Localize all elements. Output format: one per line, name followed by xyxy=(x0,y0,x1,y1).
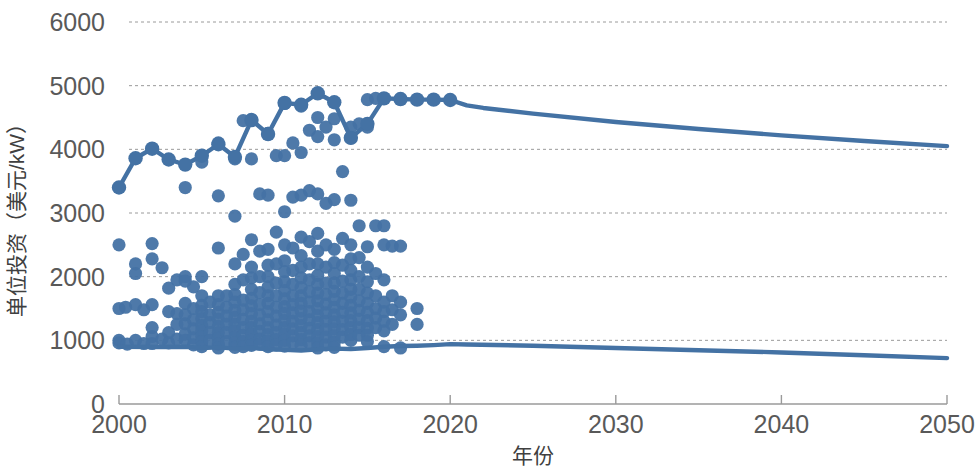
scatter-point xyxy=(394,240,407,253)
x-tick-label-2010: 2010 xyxy=(257,410,313,438)
scatter-point xyxy=(394,308,407,321)
x-tick-label-2050: 2050 xyxy=(919,410,975,438)
line-marker xyxy=(410,92,424,106)
scatter-point xyxy=(228,210,241,223)
y-tick-label-2000: 2000 xyxy=(49,263,105,291)
y-tick-label-5000: 5000 xyxy=(49,72,105,100)
scatter-point xyxy=(377,219,390,232)
scatter-point xyxy=(328,133,341,146)
line-series-0 xyxy=(119,93,947,187)
line-marker xyxy=(377,91,391,105)
y-tick-label-1000: 1000 xyxy=(49,326,105,354)
line-marker xyxy=(443,93,457,107)
y-axis-title: 单位投资（美元/kW） xyxy=(5,113,28,317)
line-marker xyxy=(128,151,142,165)
line-marker xyxy=(344,131,358,145)
line-marker xyxy=(145,142,159,156)
line-marker xyxy=(112,180,126,194)
scatter-point xyxy=(328,193,341,206)
line-marker xyxy=(393,92,407,106)
scatter-point xyxy=(278,149,291,162)
line-marker xyxy=(311,86,325,100)
scatter-point xyxy=(129,267,142,280)
x-tick-label-2000: 2000 xyxy=(91,410,147,438)
scatter-point xyxy=(146,298,159,311)
line-marker xyxy=(211,137,225,151)
scatter-point xyxy=(261,243,274,256)
scatter-point xyxy=(155,261,168,274)
scatter-point xyxy=(344,194,357,207)
scatter-point xyxy=(112,238,125,251)
x-tick-label-2030: 2030 xyxy=(588,410,644,438)
x-tick-label-2020: 2020 xyxy=(422,410,478,438)
y-tick-label-6000: 6000 xyxy=(49,8,105,36)
scatter-point xyxy=(361,240,374,253)
scatter-point xyxy=(245,152,258,165)
line-marker xyxy=(360,117,374,131)
scatter-point xyxy=(146,237,159,250)
line-marker xyxy=(161,152,175,166)
chart-container: 0100020003000400050006000 20002010202020… xyxy=(0,0,980,470)
scatter-point xyxy=(353,219,366,232)
scatter-point xyxy=(377,273,390,286)
scatter-point xyxy=(195,270,208,283)
scatter-point xyxy=(212,241,225,254)
line-marker xyxy=(277,96,291,110)
unit-investment-scatter-chart: 0100020003000400050006000 20002010202020… xyxy=(0,0,980,470)
y-tick-labels-group: 0100020003000400050006000 xyxy=(49,8,105,418)
scatter-point xyxy=(344,238,357,251)
scatter-point xyxy=(237,248,250,261)
scatter-point xyxy=(270,226,283,239)
scatter-point xyxy=(245,233,258,246)
axes-group xyxy=(119,395,947,404)
x-tick-labels-group: 200020102020203020402050 xyxy=(91,410,975,438)
x-axis-title: 年份 xyxy=(512,444,554,467)
scatter-point xyxy=(261,189,274,202)
line-marker xyxy=(244,113,258,127)
y-tick-label-3000: 3000 xyxy=(49,199,105,227)
line-marker xyxy=(178,157,192,171)
x-tick-label-2040: 2040 xyxy=(754,410,810,438)
line-marker xyxy=(261,127,275,141)
scatter-point xyxy=(278,205,291,218)
scatter-point xyxy=(295,146,308,159)
scatter-point xyxy=(311,227,324,240)
scatter-point xyxy=(410,302,423,315)
scatter-point xyxy=(328,243,341,256)
line-marker xyxy=(426,92,440,106)
line-marker xyxy=(228,150,242,164)
scatter-point xyxy=(146,252,159,265)
y-tick-label-4000: 4000 xyxy=(49,135,105,163)
line-marker xyxy=(294,98,308,112)
line-marker xyxy=(327,95,341,109)
scatter-point xyxy=(336,165,349,178)
scatter-point xyxy=(410,318,423,331)
scatter-point xyxy=(394,296,407,309)
line-marker xyxy=(195,149,209,163)
scatter-point xyxy=(179,181,192,194)
scatter-point xyxy=(212,189,225,202)
